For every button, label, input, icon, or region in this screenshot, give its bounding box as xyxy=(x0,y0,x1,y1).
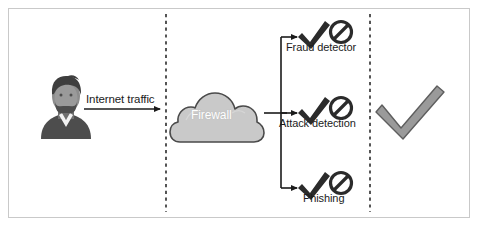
ban-icon xyxy=(331,22,352,43)
attack-detection-label: Attack detection xyxy=(279,117,356,129)
phishing-label: Phishing xyxy=(303,192,344,204)
fraud-detector-label: Fraud detector xyxy=(286,41,356,53)
large-check-icon xyxy=(376,86,444,139)
internet-traffic-label: Internet traffic xyxy=(86,93,155,105)
branch-connectors xyxy=(264,37,297,188)
diagram-figure: Internet traffic Firewall Fraud detector… xyxy=(0,0,479,227)
ban-icon xyxy=(331,98,352,119)
diagram-canvas xyxy=(0,0,479,227)
user-avatar xyxy=(41,75,91,139)
firewall-label: Firewall xyxy=(191,109,232,121)
ban-icon xyxy=(331,173,352,194)
